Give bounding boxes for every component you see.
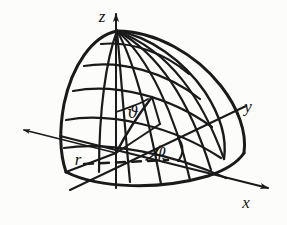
meridian-projection-line <box>152 97 160 124</box>
y-axis-label: y <box>242 97 252 116</box>
radius-label-r: r <box>75 150 82 169</box>
azimuth-angle-label-phi: φ <box>154 141 166 160</box>
x-axis-label: x <box>241 193 250 212</box>
latitude-line <box>64 146 226 178</box>
radius-and-angles <box>66 97 183 172</box>
z-axis-label: z <box>98 7 106 26</box>
y-axis-negative <box>24 130 116 153</box>
spherical-coordinates-figure: z x y r ϑ φ <box>0 0 287 225</box>
polar-angle-label-theta: ϑ <box>127 103 138 122</box>
sphere-inner-right-meridian <box>117 31 225 159</box>
figure-canvas: z x y r ϑ φ <box>0 0 287 225</box>
